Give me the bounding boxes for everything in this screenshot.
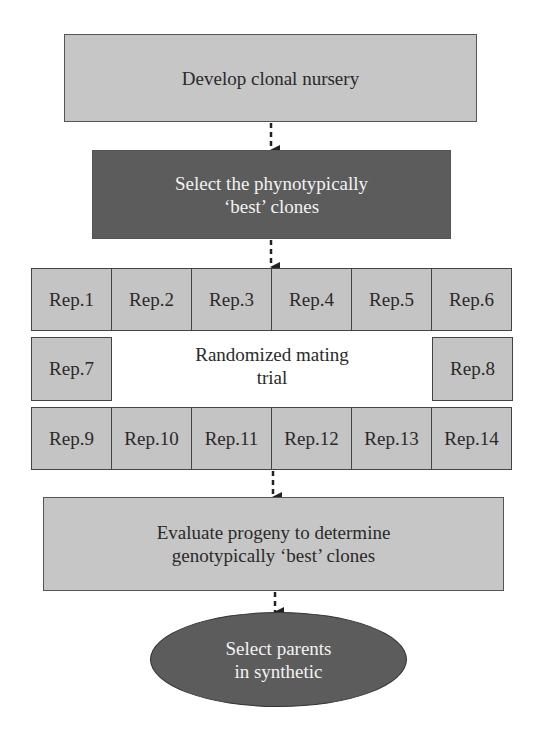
step-evaluate-label-2: genotypically ‘best’ clones (172, 544, 375, 567)
final-label-1: Select parents (225, 637, 331, 660)
rep-cell: Rep.2 (112, 269, 192, 330)
final-label-2: in synthetic (234, 660, 322, 683)
rep-cell: Rep.3 (192, 269, 272, 330)
rep-cell-7: Rep.7 (31, 337, 112, 401)
mating-label-1: Randomized mating (112, 343, 432, 366)
rep-cell: Rep.1 (32, 269, 112, 330)
rep-cell: Rep.14 (432, 408, 511, 469)
step-develop-label: Develop clonal nursery (182, 67, 359, 90)
rep-cell: Rep.13 (352, 408, 432, 469)
rep-row-top: Rep.1 Rep.2 Rep.3 Rep.4 Rep.5 Rep.6 (31, 268, 512, 331)
rep-cell: Rep.11 (192, 408, 272, 469)
rep-cell-8: Rep.8 (432, 337, 513, 401)
step-select-parents: Select parents in synthetic (150, 612, 407, 707)
rep-row-bottom: Rep.9 Rep.10 Rep.11 Rep.12 Rep.13 Rep.14 (31, 407, 512, 470)
rep-cell: Rep.6 (432, 269, 511, 330)
step-develop-nursery: Develop clonal nursery (64, 34, 477, 122)
step-evaluate-progeny: Evaluate progeny to determine genotypica… (43, 497, 504, 591)
mating-label-2: trial (112, 366, 432, 389)
rep-cell: Rep.12 (272, 408, 352, 469)
rep-cell: Rep.4 (272, 269, 352, 330)
step-select-label-2: ‘best’ clones (224, 195, 319, 218)
rep-cell: Rep.5 (352, 269, 432, 330)
rep-cell: Rep.10 (112, 408, 192, 469)
step-evaluate-label-1: Evaluate progeny to determine (157, 521, 391, 544)
step-select-label-1: Select the phynotypically (175, 172, 368, 195)
rep-cell: Rep.9 (32, 408, 112, 469)
step-select-phenotypic: Select the phynotypically ‘best’ clones (92, 150, 451, 239)
mating-trial-label: Randomized mating trial (112, 343, 432, 389)
